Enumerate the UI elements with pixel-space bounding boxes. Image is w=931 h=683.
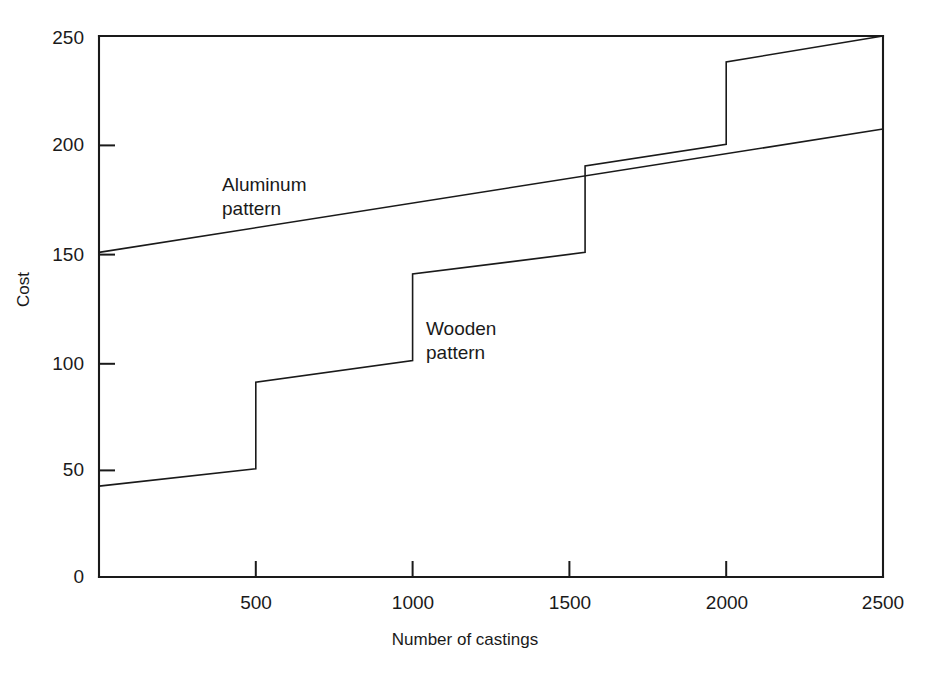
x-tick-label-2000: 2000 — [706, 592, 748, 614]
y-tick-label-100: 100 — [14, 353, 84, 375]
x-tick-label-1500: 1500 — [549, 592, 591, 614]
x-tick-label-1000: 1000 — [392, 592, 434, 614]
y-tick-label-50: 50 — [22, 459, 84, 481]
x-tick-label-500: 500 — [240, 592, 272, 614]
x-axis-title: Number of castings — [392, 630, 538, 650]
x-tick-label-2500: 2500 — [862, 592, 904, 614]
x-tick-marks — [256, 561, 726, 577]
axis-spines — [99, 36, 883, 577]
series-annotation-wooden: Wooden pattern — [426, 317, 496, 366]
y-tick-label-250: 250 — [14, 27, 84, 49]
series-line-wooden — [99, 36, 883, 486]
series-line-aluminum — [99, 129, 883, 252]
data-series-group — [99, 36, 883, 486]
y-axis-title: Cost — [14, 272, 34, 307]
series-annotation-aluminum: Aluminum pattern — [222, 173, 306, 222]
y-tick-label-200: 200 — [14, 134, 84, 156]
y-tick-label-0: 0 — [22, 566, 84, 588]
y-tick-marks — [99, 145, 115, 470]
chart-figure: 0 50 100 150 200 250 500 1000 1500 2000 … — [0, 0, 931, 683]
y-tick-label-150: 150 — [14, 244, 84, 266]
